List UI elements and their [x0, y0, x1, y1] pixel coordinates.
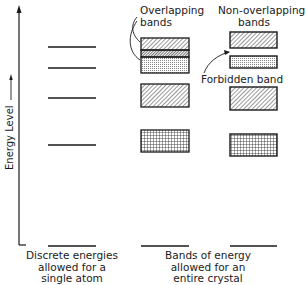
- band-fourth: [230, 134, 277, 156]
- band-third: [230, 87, 277, 110]
- caption-line: Discrete energies: [20, 250, 124, 262]
- caption-line: single atom: [20, 273, 124, 285]
- forbidden-band-label: Forbidden band: [201, 74, 283, 86]
- discrete-levels: [48, 47, 96, 246]
- non-overlapping-label-line2: bands: [218, 17, 290, 29]
- band-upper: [230, 32, 277, 48]
- label-arrow-icon: [9, 74, 12, 80]
- band-overlap: [141, 50, 189, 57]
- non-overlapping-label: Non-overlapping bands: [218, 5, 290, 28]
- caption-line: entire crystal: [156, 273, 260, 285]
- band-second: [230, 56, 277, 68]
- overlapping-bands: [130, 17, 189, 246]
- band-upper: [141, 38, 189, 50]
- overlapping-label-line1: Overlapping: [140, 5, 204, 17]
- overlapping-label-line2: bands: [140, 17, 204, 29]
- caption-single-atom: Discrete energies allowed for a single a…: [20, 250, 124, 285]
- overlapping-label: Overlapping bands: [140, 5, 204, 28]
- pointer-arrow-icon: [133, 17, 140, 42]
- band-second: [141, 57, 189, 73]
- band-fourth: [141, 130, 189, 152]
- arrowhead-icon: [224, 50, 230, 55]
- axis-arrow-icon: [17, 5, 22, 13]
- caption-entire-crystal: Bands of energy allowed for an entire cr…: [156, 250, 260, 285]
- axis-label: Energy Level: [4, 105, 15, 170]
- non-overlapping-bands: [204, 32, 277, 246]
- band-third: [141, 84, 189, 107]
- non-overlapping-label-line1: Non-overlapping: [218, 5, 290, 17]
- caption-line: Bands of energy: [156, 250, 260, 262]
- pointer-arrow-icon: [204, 52, 229, 73]
